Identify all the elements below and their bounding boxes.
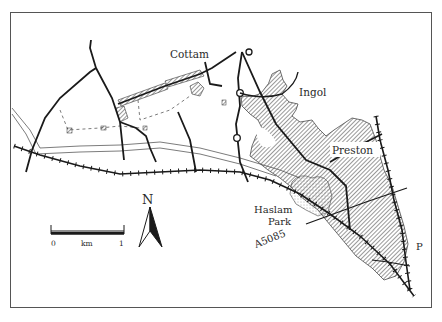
label-ingol: Ingol xyxy=(299,86,327,98)
map-canvas: Cottam Ingol Preston Haslam Park A5085 P… xyxy=(0,0,442,322)
scale-unit: km xyxy=(81,239,93,248)
label-p: P xyxy=(416,241,423,252)
north-label: N xyxy=(142,192,153,207)
scale-start: 0 xyxy=(51,239,56,248)
label-park: Park xyxy=(268,216,292,227)
label-haslam: Haslam xyxy=(254,204,293,215)
label-preston: Preston xyxy=(332,144,373,156)
scale-end: 1 xyxy=(119,239,124,248)
label-cottam: Cottam xyxy=(170,48,209,60)
